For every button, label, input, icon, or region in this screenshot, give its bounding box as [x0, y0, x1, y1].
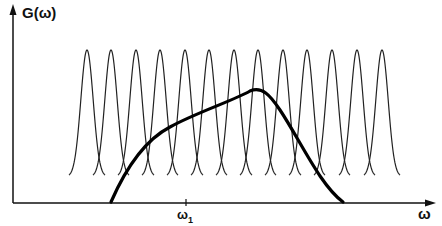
y-axis-label: G(ω) [22, 4, 56, 21]
tick-label-omega1: ω1 [177, 207, 193, 225]
tick-label-subscript: 1 [188, 215, 193, 225]
y-axis-arrow-icon [10, 4, 17, 15]
x-axis-label: ω [418, 205, 431, 222]
diagram-canvas [0, 0, 442, 226]
tick-label-symbol: ω [177, 207, 188, 222]
narrow-filter-curves [69, 50, 400, 175]
